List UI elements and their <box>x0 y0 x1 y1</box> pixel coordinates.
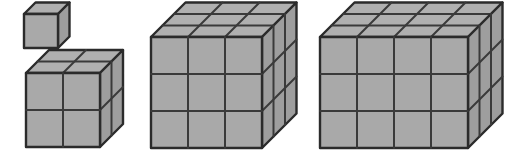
figure-canvas <box>0 0 518 153</box>
front-face <box>151 37 262 148</box>
cube-stack-two-cube <box>26 50 123 147</box>
cube-stack-four-by-three-box <box>320 3 503 149</box>
cube-stack-three-cube <box>151 3 297 149</box>
cube-stacks-illustration <box>0 0 518 153</box>
front-face <box>24 14 58 48</box>
cube-stack-unit-cube <box>24 3 70 49</box>
